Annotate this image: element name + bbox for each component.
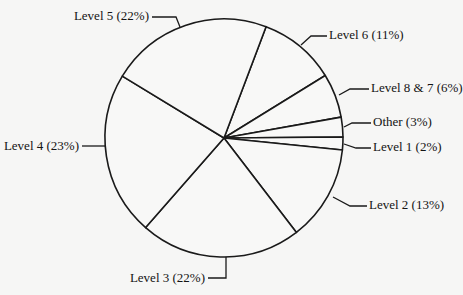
pie-slices <box>105 19 343 257</box>
label-level-4: Level 4 (23%) <box>4 138 79 153</box>
leader-line <box>301 36 327 45</box>
label-level-2: Level 2 (13%) <box>369 197 444 212</box>
leader-line <box>344 144 371 148</box>
label-level-8-7: Level 8 & 7 (6%) <box>371 80 463 95</box>
leader-line <box>339 89 369 95</box>
leader-line <box>208 257 226 278</box>
leader-line <box>152 17 180 27</box>
label-level-6: Level 6 (11%) <box>329 27 404 42</box>
leader-line <box>333 197 367 206</box>
label-level-1: Level 1 (2%) <box>373 139 442 154</box>
label-level-5: Level 5 (22%) <box>74 8 149 23</box>
label-level-3: Level 3 (22%) <box>130 270 205 285</box>
label-other: Other (3%) <box>373 114 432 129</box>
pie-chart: Level 6 (11%) Level 8 & 7 (6%) Other (3%… <box>0 0 463 295</box>
leader-line <box>344 123 371 127</box>
